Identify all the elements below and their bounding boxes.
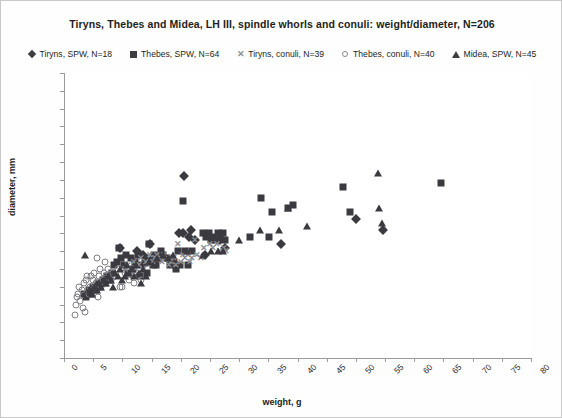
x-axis-title: weight, g [1, 397, 562, 407]
legend-label: Tiryns, conuli, N=39 [248, 49, 324, 59]
y-axis-tick [60, 73, 64, 74]
chart-title: Tiryns, Thebes and Midea, LH III, spindl… [1, 18, 562, 30]
data-point [82, 308, 89, 315]
data-point [119, 283, 126, 290]
x-tick-label: 65 [450, 362, 464, 376]
x-axis-tick [414, 358, 415, 362]
y-axis-tick [60, 305, 64, 306]
x-axis-tick [298, 358, 299, 362]
y-axis-tick [60, 180, 64, 181]
data-point [101, 258, 108, 265]
y-axis-tick [60, 269, 64, 270]
y-axis-tick [60, 198, 64, 199]
y-axis-tick [60, 144, 64, 145]
x-tick-label: 10 [129, 362, 143, 376]
x-axis-tick [473, 358, 474, 362]
x-axis-tick [181, 358, 182, 362]
y-axis-tick [60, 287, 64, 288]
plot-background [64, 73, 531, 358]
legend-label: Thebes, SPW, N=64 [141, 49, 219, 59]
data-point [93, 255, 100, 262]
data-point [146, 241, 153, 248]
data-point [235, 237, 243, 244]
x-axis-tick [239, 358, 240, 362]
legend-label: Tiryns, SPW, N=18 [40, 49, 113, 59]
data-point [199, 251, 207, 258]
x-axis-tick [356, 358, 357, 362]
legend-label: Thebes, conuli, N=40 [353, 49, 434, 59]
data-point [438, 180, 445, 187]
x-tick-label: 60 [421, 362, 435, 376]
legend-item-0[interactable]: Tiryns, SPW, N=18 [28, 49, 113, 59]
data-point [347, 208, 354, 215]
data-point [77, 298, 84, 305]
data-point [139, 265, 147, 272]
data-point [219, 248, 227, 255]
data-point [169, 251, 177, 258]
y-axis-tick [60, 126, 64, 127]
data-point [109, 283, 117, 290]
chart-frame: Tiryns, Thebes and Midea, LH III, spindl… [0, 0, 562, 418]
legend-label: Midea, SPW, N=45 [464, 49, 537, 59]
data-point [78, 287, 85, 294]
data-point [284, 205, 292, 212]
x-tick-label: 20 [187, 362, 201, 376]
x-axis-tick [210, 358, 211, 362]
x-axis-tick [93, 358, 94, 362]
x-tick-label: 0 [69, 362, 79, 372]
legend-item-4[interactable]: Midea, SPW, N=45 [452, 49, 537, 59]
circle-marker-icon [341, 50, 350, 59]
y-axis-tick [60, 322, 64, 323]
data-point [246, 233, 253, 240]
x-axis-tick [531, 358, 532, 362]
x-axis-tick [268, 358, 269, 362]
plot-area: ✕✕✕✕✕✕✕✕✕✕✕✕✕✕✕✕✕✕✕✕✕✕✕✕✕✕✕✕✕✕✕✕✕✕✕✕✕✕✕ [64, 73, 531, 358]
data-point [137, 280, 145, 287]
x-tick-label: 40 [304, 362, 318, 376]
y-axis-tick [60, 162, 64, 163]
x-tick-label: 75 [509, 362, 523, 376]
y-axis-tick [60, 251, 64, 252]
square-marker-icon [129, 50, 138, 59]
data-point [142, 273, 150, 280]
triangle-marker-icon [452, 50, 461, 59]
diamond-marker-icon [28, 50, 37, 59]
data-point [275, 226, 283, 233]
data-point [375, 205, 383, 212]
legend-item-2[interactable]: ✕Tiryns, conuli, N=39 [236, 49, 324, 59]
legend-item-3[interactable]: Thebes, conuli, N=40 [341, 49, 434, 59]
x-tick-label: 50 [363, 362, 377, 376]
data-point [149, 262, 157, 269]
y-axis-tick [60, 233, 64, 234]
x-tick-label: 45 [333, 362, 347, 376]
x-tick-label: 70 [479, 362, 493, 376]
x-axis-labels: 05101520253035404550556065707580 [64, 362, 531, 392]
data-point [71, 312, 78, 319]
data-point [378, 219, 386, 226]
x-axis-tick [443, 358, 444, 362]
data-point [115, 244, 122, 251]
data-point: ✕ [174, 240, 182, 248]
data-point [183, 248, 191, 255]
x-tick-label: 15 [158, 362, 172, 376]
y-axis-tick [60, 216, 64, 217]
data-point [219, 230, 226, 237]
data-point [303, 223, 311, 230]
y-axis-tick [60, 109, 64, 110]
x-tick-label: 35 [275, 362, 289, 376]
x-axis-tick [64, 358, 65, 362]
chart-legend: Tiryns, SPW, N=18Thebes, SPW, N=64✕Tiryn… [1, 49, 562, 59]
legend-item-1[interactable]: Thebes, SPW, N=64 [129, 49, 219, 59]
data-point [374, 169, 382, 176]
data-point [268, 208, 275, 215]
data-point [81, 251, 89, 258]
x-axis-tick [385, 358, 386, 362]
x-tick-label: 5 [99, 362, 109, 372]
x-axis-tick [327, 358, 328, 362]
x-tick-label: 30 [246, 362, 260, 376]
x-tick-label: 55 [392, 362, 406, 376]
x-marker-icon: ✕ [236, 50, 245, 59]
x-axis-tick [152, 358, 153, 362]
data-point [256, 226, 264, 233]
data-point: ✕ [191, 236, 199, 244]
